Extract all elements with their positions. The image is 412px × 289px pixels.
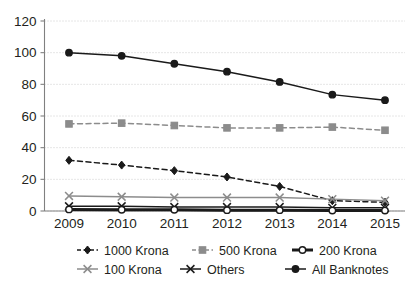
y-axis-tick-label: 0: [29, 204, 37, 219]
legend-item-100-krona[interactable]: 100 Krona: [77, 263, 162, 277]
y-axis-tick-labels: 020406080100120: [14, 14, 37, 219]
data-point-marker: [224, 68, 230, 74]
data-point-marker: [224, 125, 230, 131]
data-point-marker: [66, 206, 72, 212]
y-axis-tick-label: 40: [21, 140, 36, 155]
series-500-krona: [66, 120, 388, 134]
line-chart: 020406080100120 200920102011201220132014…: [0, 0, 412, 289]
y-axis-tick-label: 20: [21, 172, 36, 187]
legend-item-200-krona[interactable]: 200 Krona: [292, 244, 377, 258]
data-point-marker: [382, 127, 388, 133]
data-point-marker: [171, 61, 177, 67]
data-point-marker: [382, 97, 388, 103]
legend-item-1000-krona[interactable]: 1000 Krona: [77, 244, 169, 258]
chart-container: 020406080100120 200920102011201220132014…: [0, 0, 412, 289]
series-all-banknotes: [66, 49, 388, 103]
data-point-marker: [171, 167, 177, 175]
data-point-marker: [329, 124, 335, 130]
x-axis-tick-label: 2011: [160, 216, 189, 231]
data-point-marker: [276, 182, 282, 190]
y-axis-tick-label: 60: [21, 109, 36, 124]
data-point-marker: [84, 246, 90, 254]
data-point-marker: [382, 207, 388, 213]
x-axis-tick-label: 2013: [265, 216, 295, 231]
legend-item-all-banknotes[interactable]: All Banknotes: [285, 263, 388, 277]
data-point-marker: [118, 207, 124, 213]
series-100-krona: [65, 192, 389, 205]
data-series-group: [65, 49, 389, 213]
x-axis-tick-label: 2015: [370, 216, 400, 231]
data-point-marker: [118, 161, 124, 169]
legend-item-others[interactable]: Others: [180, 263, 245, 277]
axes-group: [41, 19, 406, 211]
data-point-marker: [171, 207, 177, 213]
x-axis-tick-label: 2009: [54, 216, 84, 231]
data-point-marker: [276, 79, 282, 85]
legend-item-500-krona[interactable]: 500 Krona: [192, 244, 277, 258]
x-axis-tick-label: 2012: [212, 216, 242, 231]
data-point-marker: [66, 121, 72, 127]
data-point-marker: [224, 173, 230, 181]
data-point-marker: [276, 207, 282, 213]
y-axis-tick-label: 80: [21, 77, 36, 92]
data-point-marker: [276, 125, 282, 131]
data-point-marker: [292, 266, 298, 272]
data-point-marker: [171, 122, 177, 128]
data-point-marker: [299, 247, 305, 253]
x-axis-tick-label: 2014: [317, 216, 348, 231]
data-point-marker: [199, 247, 205, 253]
legend-label: 100 Krona: [104, 263, 162, 277]
gridlines-group: [45, 21, 406, 211]
legend-label: 200 Krona: [319, 244, 377, 258]
data-point-marker: [329, 91, 335, 97]
data-point-marker: [66, 49, 72, 55]
x-axis-tick-labels: 2009201020112012201320142015: [54, 216, 400, 231]
data-point-marker: [118, 53, 124, 59]
y-axis-tick-label: 120: [14, 14, 37, 29]
chart-legend: 1000 Krona500 Krona200 Krona100 KronaOth…: [77, 244, 388, 277]
legend-label: Others: [207, 263, 245, 277]
series-line: [69, 53, 385, 100]
x-axis-tick-label: 2010: [107, 216, 137, 231]
data-point-marker: [224, 207, 230, 213]
legend-label: 500 Krona: [219, 244, 277, 258]
y-axis-tick-label: 100: [14, 45, 37, 60]
data-point-marker: [66, 156, 72, 164]
data-point-marker: [329, 207, 335, 213]
legend-label: All Banknotes: [312, 263, 388, 277]
legend-label: 1000 Krona: [104, 244, 169, 258]
data-point-marker: [118, 120, 124, 126]
